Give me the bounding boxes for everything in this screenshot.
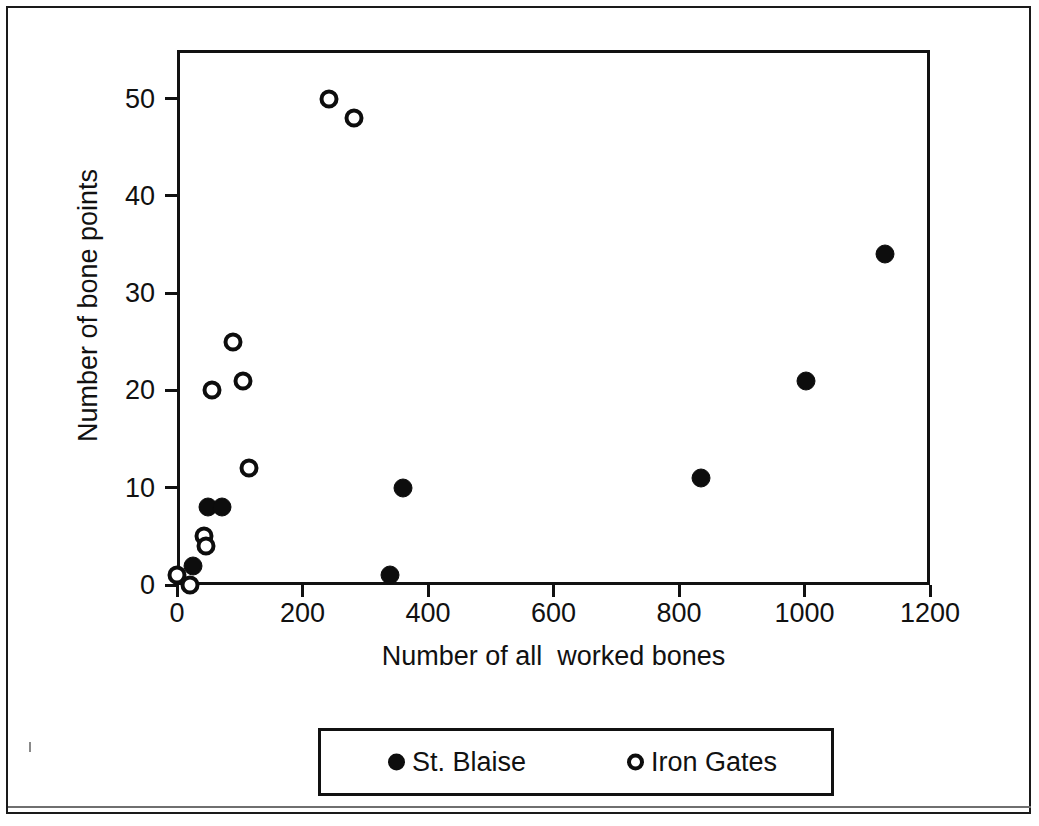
chart-legend: St. BlaiseIron Gates	[318, 728, 834, 796]
x-tick-label: 400	[405, 600, 450, 627]
y-tick-mark	[165, 486, 177, 489]
data-point-filled	[381, 566, 400, 585]
x-tick-label: 0	[169, 600, 184, 627]
data-point-filled	[691, 469, 710, 488]
y-tick-label: 30	[125, 280, 155, 307]
x-tick-label: 1000	[774, 600, 834, 627]
legend-entry: St. Blaise	[388, 747, 526, 778]
y-tick-label: 50	[125, 85, 155, 112]
x-tick-label: 200	[280, 600, 325, 627]
legend-label: St. Blaise	[412, 747, 526, 778]
page-canvas: 020040060080010001200 01020304050 Number…	[0, 0, 1039, 826]
y-tick-mark	[165, 389, 177, 392]
x-tick-label: 800	[656, 600, 701, 627]
y-tick-mark	[165, 292, 177, 295]
x-tick-mark	[427, 585, 430, 597]
data-point-open	[344, 109, 363, 128]
x-tick-label: 600	[531, 600, 576, 627]
x-tick-mark	[678, 585, 681, 597]
x-tick-label: 1200	[900, 600, 960, 627]
data-point-filled	[393, 478, 412, 497]
data-point-open	[202, 381, 221, 400]
y-tick-label: 10	[125, 474, 155, 501]
plot-data-area	[177, 50, 930, 585]
data-point-filled	[213, 498, 232, 517]
legend-label: Iron Gates	[651, 747, 777, 778]
y-tick-label: 20	[125, 377, 155, 404]
x-axis-title: Number of all worked bones	[177, 641, 930, 672]
y-tick-mark	[165, 194, 177, 197]
data-point-open	[240, 459, 259, 478]
y-tick-mark	[165, 97, 177, 100]
x-tick-mark	[176, 585, 179, 597]
legend-entry: Iron Gates	[627, 747, 777, 778]
x-tick-mark	[552, 585, 555, 597]
x-tick-mark	[301, 585, 304, 597]
y-axis-title: Number of bone points	[73, 38, 107, 573]
x-tick-mark	[929, 585, 932, 597]
data-point-filled	[796, 371, 815, 390]
data-point-open	[224, 332, 243, 351]
data-point-open	[180, 576, 199, 595]
data-point-open	[233, 371, 252, 390]
y-tick-label: 40	[125, 182, 155, 209]
data-point-filled	[875, 245, 894, 264]
data-point-open	[320, 89, 339, 108]
y-tick-label: 0	[140, 572, 155, 599]
filled-circle-icon	[388, 754, 405, 771]
open-circle-icon	[627, 754, 644, 771]
x-tick-mark	[803, 585, 806, 597]
scatter-chart: 020040060080010001200 01020304050 Number…	[0, 0, 1039, 826]
data-point-open	[197, 537, 216, 556]
